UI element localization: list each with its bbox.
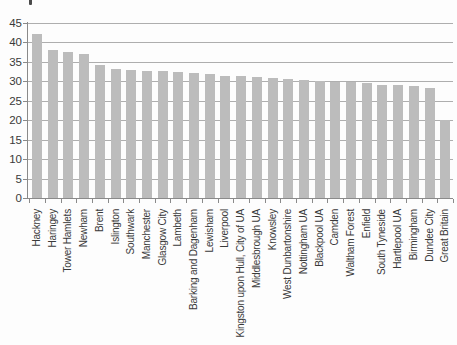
bar bbox=[126, 70, 136, 198]
x-axis-tick bbox=[45, 199, 46, 203]
document-page: 051015202530354045HackneyHaringeyTower H… bbox=[0, 0, 457, 345]
y-axis-tick-label: 15 bbox=[0, 134, 22, 146]
x-axis-category-label: Knowsley bbox=[266, 209, 280, 340]
x-axis-category-label: Barking and Dagenham bbox=[187, 209, 201, 340]
y-axis-tick-label: 25 bbox=[0, 95, 22, 107]
x-axis-tick bbox=[92, 199, 93, 203]
bar bbox=[330, 82, 340, 198]
x-axis-tick bbox=[233, 199, 234, 203]
y-axis-tick-label: 45 bbox=[0, 17, 22, 29]
x-axis-category-label: Newham bbox=[77, 209, 91, 340]
x-axis-category-label: Dundee City bbox=[423, 209, 437, 340]
bar bbox=[409, 86, 419, 198]
x-axis-tick bbox=[139, 199, 140, 203]
x-axis-tick bbox=[170, 199, 171, 203]
x-axis-tick bbox=[249, 199, 250, 203]
x-axis-category-label: Waltham Forest bbox=[344, 209, 358, 340]
y-axis-tick-label: 40 bbox=[0, 36, 22, 48]
bar bbox=[252, 77, 262, 198]
bar bbox=[315, 81, 325, 198]
x-axis-category-label: Islington bbox=[109, 209, 123, 340]
y-axis-tick bbox=[23, 198, 27, 199]
bar bbox=[205, 74, 215, 198]
x-axis-category-label: Southwark bbox=[124, 209, 138, 340]
x-axis-tick bbox=[108, 199, 109, 203]
x-axis-tick bbox=[327, 199, 328, 203]
x-axis-tick bbox=[453, 199, 454, 203]
x-axis-tick bbox=[422, 199, 423, 203]
y-axis-tick bbox=[23, 140, 27, 141]
x-axis-tick bbox=[343, 199, 344, 203]
bar bbox=[283, 79, 293, 198]
x-axis-category-label: Liverpool bbox=[218, 209, 232, 340]
x-axis-category-label: Enfield bbox=[360, 209, 374, 340]
y-axis-tick-label: 35 bbox=[0, 56, 22, 68]
x-axis-category-label: South Tyneside bbox=[375, 209, 389, 340]
x-axis-category-label: Great Britain bbox=[438, 209, 452, 340]
x-axis-tick bbox=[155, 199, 156, 203]
x-axis-tick bbox=[359, 199, 360, 203]
bar bbox=[377, 85, 387, 198]
bar bbox=[393, 85, 403, 198]
bar bbox=[142, 71, 152, 198]
bar bbox=[32, 34, 42, 198]
x-axis-tick bbox=[76, 199, 77, 203]
x-axis-category-label: Kingston upon Hull, City of UA bbox=[234, 209, 248, 340]
y-axis-tick-label: 10 bbox=[0, 153, 22, 165]
bar bbox=[158, 71, 168, 198]
x-axis-tick bbox=[61, 199, 62, 203]
gridline bbox=[27, 42, 453, 43]
bar bbox=[268, 78, 278, 198]
y-axis-tick bbox=[23, 62, 27, 63]
x-axis-line bbox=[27, 198, 453, 199]
y-axis-tick-label: 5 bbox=[0, 173, 22, 185]
gridline bbox=[27, 23, 453, 24]
bar bbox=[299, 80, 309, 198]
bar bbox=[48, 50, 58, 198]
x-axis-tick bbox=[406, 199, 407, 203]
x-axis-tick bbox=[390, 199, 391, 203]
bar bbox=[236, 76, 246, 198]
x-axis-category-label: Brent bbox=[93, 209, 107, 340]
bar bbox=[362, 83, 372, 198]
x-axis-category-label: Lambeth bbox=[171, 209, 185, 340]
x-axis-tick bbox=[280, 199, 281, 203]
x-axis-tick bbox=[202, 199, 203, 203]
bar bbox=[95, 65, 105, 198]
bar bbox=[220, 76, 230, 198]
x-axis-category-label: Camden bbox=[328, 209, 342, 340]
x-axis-tick bbox=[186, 199, 187, 203]
bar bbox=[425, 88, 435, 198]
y-axis-tick bbox=[23, 159, 27, 160]
y-axis-tick-label: 30 bbox=[0, 75, 22, 87]
bar bbox=[189, 73, 199, 198]
y-axis-tick-label: 0 bbox=[0, 192, 22, 204]
x-axis-tick bbox=[218, 199, 219, 203]
x-axis-category-label: Hackney bbox=[30, 209, 44, 340]
y-axis-tick bbox=[23, 42, 27, 43]
y-axis-tick bbox=[23, 120, 27, 121]
bar bbox=[79, 54, 89, 198]
bar bbox=[173, 72, 183, 198]
x-axis-category-label: Blackpool UA bbox=[313, 209, 327, 340]
bar bbox=[63, 52, 73, 198]
x-axis-category-label: Birmingham bbox=[407, 209, 421, 340]
x-axis-category-label: Middlesbrough UA bbox=[250, 209, 264, 340]
x-axis-tick bbox=[312, 199, 313, 203]
y-axis-tick-label: 20 bbox=[0, 114, 22, 126]
y-axis-line bbox=[27, 22, 28, 199]
x-axis-category-label: Glasgow City bbox=[156, 209, 170, 340]
y-axis-tick bbox=[23, 23, 27, 24]
x-axis-category-label: Lewisham bbox=[203, 209, 217, 340]
bar-chart: 051015202530354045HackneyHaringeyTower H… bbox=[0, 0, 457, 345]
x-axis-category-label: Hartlepool UA bbox=[391, 209, 405, 340]
x-axis-category-label: Manchester bbox=[140, 209, 154, 340]
x-axis-tick bbox=[375, 199, 376, 203]
x-axis-tick bbox=[437, 199, 438, 203]
gridline bbox=[27, 62, 453, 63]
x-axis-tick bbox=[29, 199, 30, 203]
bar bbox=[346, 82, 356, 198]
x-axis-category-label: Haringey bbox=[46, 209, 60, 340]
y-axis-tick bbox=[23, 179, 27, 180]
x-axis-tick bbox=[296, 199, 297, 203]
